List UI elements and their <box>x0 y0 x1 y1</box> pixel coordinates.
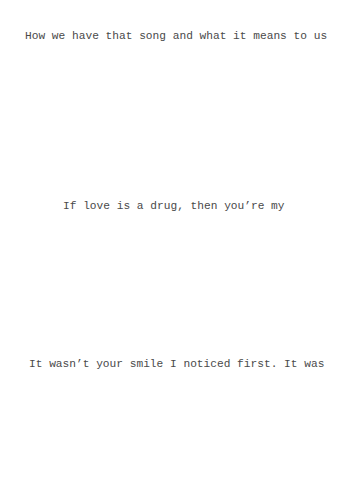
prompt-line-3: It wasn’t your smile I noticed first. It… <box>29 357 324 371</box>
prompt-line-1: How we have that song and what it means … <box>25 29 327 43</box>
prompt-line-2: If love is a drug, then you’re my <box>63 199 285 213</box>
